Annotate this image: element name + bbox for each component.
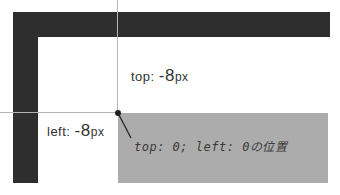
origin-dot [115,110,121,116]
origin-note: top: 0; left: 0の位置 [134,137,287,154]
origin-marker [0,0,340,195]
leader-line [118,113,131,138]
